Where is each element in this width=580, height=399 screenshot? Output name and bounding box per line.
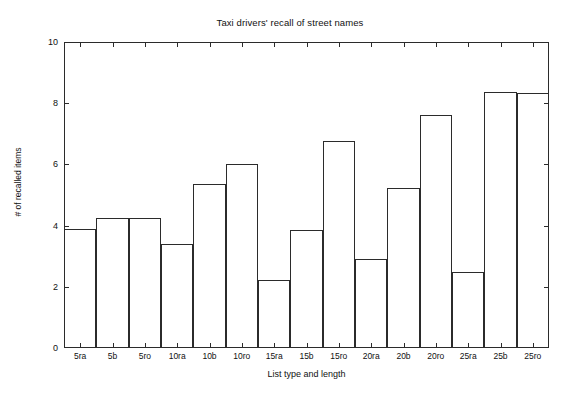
bar bbox=[517, 93, 549, 348]
x-tick-mark bbox=[307, 42, 308, 47]
x-tick-mark bbox=[404, 42, 405, 47]
x-tick-label: 10b bbox=[202, 351, 216, 361]
x-tick-label: 20ra bbox=[363, 351, 380, 361]
x-tick-mark bbox=[468, 343, 469, 348]
y-tick-label: 2 bbox=[34, 282, 58, 292]
x-tick-label: 5b bbox=[108, 351, 117, 361]
bar bbox=[355, 259, 387, 348]
bar bbox=[96, 218, 128, 348]
x-tick-mark bbox=[371, 343, 372, 348]
x-tick-mark bbox=[242, 343, 243, 348]
x-tick-mark bbox=[501, 343, 502, 348]
x-tick-mark bbox=[274, 343, 275, 348]
x-tick-mark bbox=[533, 42, 534, 47]
y-tick-label: 8 bbox=[34, 98, 58, 108]
bar bbox=[226, 164, 258, 348]
bar-series bbox=[64, 42, 549, 348]
bar bbox=[452, 272, 484, 348]
y-tick-mark bbox=[544, 287, 549, 288]
x-tick-label: 15ro bbox=[330, 351, 347, 361]
x-tick-label: 10ro bbox=[233, 351, 250, 361]
x-tick-label: 15b bbox=[299, 351, 313, 361]
chart-title: Taxi drivers' recall of street names bbox=[0, 17, 580, 28]
y-tick-mark bbox=[64, 164, 69, 165]
x-tick-label: 5ra bbox=[74, 351, 86, 361]
bar bbox=[193, 184, 225, 348]
x-tick-mark bbox=[113, 343, 114, 348]
x-tick-mark bbox=[145, 42, 146, 47]
x-tick-mark bbox=[210, 42, 211, 47]
y-tick-label: 10 bbox=[34, 37, 58, 47]
x-tick-mark bbox=[436, 42, 437, 47]
x-tick-mark bbox=[307, 343, 308, 348]
x-tick-mark bbox=[242, 42, 243, 47]
y-tick-mark bbox=[64, 226, 69, 227]
bar bbox=[64, 229, 96, 348]
x-tick-mark bbox=[145, 343, 146, 348]
x-tick-label: 25ra bbox=[460, 351, 477, 361]
x-tick-label: 5ro bbox=[139, 351, 151, 361]
bar bbox=[129, 218, 161, 348]
x-tick-mark bbox=[501, 42, 502, 47]
bar bbox=[161, 244, 193, 348]
x-tick-mark bbox=[80, 42, 81, 47]
bar bbox=[420, 115, 452, 348]
x-tick-mark bbox=[436, 343, 437, 348]
plot-area bbox=[64, 42, 549, 348]
y-tick-mark bbox=[64, 287, 69, 288]
x-axis-tick-labels: 5ra5b5ro10ra10b10ro15ra15b15ro20ra20b20r… bbox=[64, 351, 549, 365]
x-tick-mark bbox=[339, 42, 340, 47]
x-tick-mark bbox=[274, 42, 275, 47]
x-tick-label: 25ro bbox=[524, 351, 541, 361]
x-tick-mark bbox=[80, 343, 81, 348]
figure-canvas: Taxi drivers' recall of street names # o… bbox=[0, 0, 580, 399]
bar bbox=[484, 92, 516, 348]
y-tick-mark bbox=[544, 103, 549, 104]
x-tick-label: 20b bbox=[396, 351, 410, 361]
y-tick-mark bbox=[544, 226, 549, 227]
y-axis-tick-labels: 0246810 bbox=[32, 42, 58, 348]
x-tick-mark bbox=[177, 42, 178, 47]
x-tick-mark bbox=[468, 42, 469, 47]
x-tick-mark bbox=[371, 42, 372, 47]
x-tick-label: 25b bbox=[493, 351, 507, 361]
y-tick-label: 4 bbox=[34, 221, 58, 231]
x-tick-mark bbox=[210, 343, 211, 348]
y-tick-mark bbox=[544, 164, 549, 165]
x-tick-label: 15ra bbox=[266, 351, 283, 361]
x-axis-label: List type and length bbox=[64, 369, 549, 379]
x-tick-mark bbox=[533, 343, 534, 348]
bar bbox=[323, 141, 355, 348]
x-tick-label: 10ra bbox=[169, 351, 186, 361]
y-axis-label: # of recalled items bbox=[13, 102, 23, 262]
x-tick-mark bbox=[177, 343, 178, 348]
x-tick-mark bbox=[404, 343, 405, 348]
y-tick-label: 6 bbox=[34, 159, 58, 169]
bar bbox=[258, 280, 290, 348]
y-tick-label: 0 bbox=[34, 343, 58, 353]
x-tick-label: 20ro bbox=[427, 351, 444, 361]
bar bbox=[290, 230, 322, 348]
x-tick-mark bbox=[113, 42, 114, 47]
x-tick-mark bbox=[339, 343, 340, 348]
bar bbox=[387, 188, 419, 348]
y-tick-mark bbox=[64, 103, 69, 104]
